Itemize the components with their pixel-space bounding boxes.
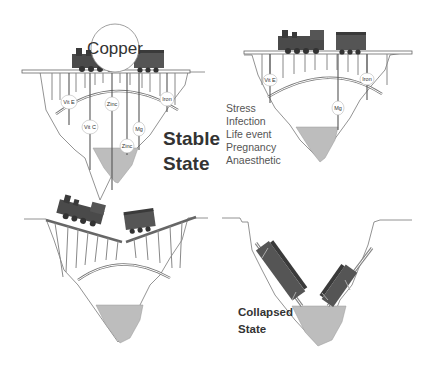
stressor-item: Infection xyxy=(226,115,266,127)
bridge-deck xyxy=(244,51,412,54)
water xyxy=(93,148,138,183)
collapsed-label-line1: Collapsed xyxy=(238,306,293,318)
bridge-pillars xyxy=(55,222,182,277)
label-iron: Iron xyxy=(362,76,371,82)
stable-label-line2: State xyxy=(163,153,209,174)
label-vit-e: Vit E xyxy=(63,99,75,105)
label-vit-c: Vit C xyxy=(84,124,96,130)
water xyxy=(96,305,143,343)
locomotive xyxy=(278,30,324,54)
label-vit-e: Vit E xyxy=(264,77,276,83)
stressor-item: Pregnancy xyxy=(226,141,277,153)
label-mg: Mg xyxy=(334,105,342,111)
derailing-locomotive xyxy=(55,193,106,228)
collapsed-label-line2: State xyxy=(238,323,266,335)
stable-label-line1: Stable xyxy=(163,128,220,149)
stressor-item: Life event xyxy=(226,128,272,140)
fallen-tender xyxy=(318,262,357,307)
panel-collapsed-state: Collapsed State xyxy=(222,218,412,346)
water xyxy=(296,127,338,162)
fallen-locomotive xyxy=(256,239,309,301)
label-mg: Mg xyxy=(135,126,143,132)
stressor-item: Anaesthetic xyxy=(226,154,281,166)
stressor-item: Stress xyxy=(226,102,256,114)
derailing-tender xyxy=(123,208,156,235)
bridge-collapse-diagram: Copper Vit E Zinc Iron Vit C Mg Zinc Sta… xyxy=(0,0,432,370)
label-zinc-bottom: Zinc xyxy=(122,143,133,149)
panel-stressed-state: Vit E Iron Mg Stress Infection Life even… xyxy=(226,30,412,166)
label-iron: Iron xyxy=(162,96,171,102)
panel-breaking-state xyxy=(24,193,208,343)
copper-label: Copper xyxy=(87,39,143,58)
panel-stable-state: Copper Vit E Zinc Iron Vit C Mg Zinc Sta… xyxy=(22,24,220,200)
label-zinc-top: Zinc xyxy=(107,101,118,107)
stressor-list: Stress Infection Life event Pregnancy An… xyxy=(226,102,281,166)
